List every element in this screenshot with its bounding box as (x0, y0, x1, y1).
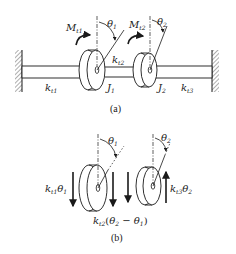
caption-a: (a) (110, 103, 121, 115)
label-mt1: Mt1 (65, 22, 82, 34)
torsional-system-figure: Mt1 Mt2 θ1 θ2 kt1 kt2 kt3 J1 J2 (a) (0, 0, 236, 254)
label-j1: J1 (105, 82, 115, 94)
right-wall (212, 50, 219, 92)
moment-mt2-arrow (128, 36, 143, 44)
label-kt3-theta2: kt3θ2 (170, 183, 192, 195)
label-mt2: Mt2 (128, 19, 146, 31)
label-kt1: kt1 (45, 82, 57, 94)
moment-mt1-arrow (76, 35, 90, 45)
left-wall (15, 50, 22, 92)
disk-j1 (79, 50, 105, 90)
subfigure-b: θ1 θ2 kt1θ1 kt3θ2 kt2(θ2 − θ1) (b) (45, 132, 192, 244)
free-body-disk-2 (136, 167, 161, 205)
label-j2: J2 (156, 82, 166, 94)
fb-rotated-line-1-dashed (108, 146, 124, 170)
shaft-kt3 (151, 66, 212, 78)
free-body-disk-1 (79, 165, 107, 211)
subfigure-a: Mt1 Mt2 θ1 θ2 kt1 kt2 kt3 J1 J2 (a) (15, 16, 219, 115)
fb-label-theta1: θ1 (108, 135, 118, 147)
label-theta1: θ1 (107, 18, 117, 30)
label-kt2: kt2 (112, 54, 124, 66)
rotated-line-2 (150, 26, 167, 70)
shaft-kt1 (22, 66, 80, 78)
fb-label-theta2: θ2 (161, 132, 171, 144)
label-kt2-theta-diff: kt2(θ2 − θ1) (93, 215, 148, 227)
caption-b: (b) (111, 232, 123, 244)
label-kt1-theta1: kt1θ1 (45, 183, 67, 195)
disk-j2 (133, 53, 157, 87)
label-theta2: θ2 (157, 16, 167, 28)
label-kt3: kt3 (181, 82, 193, 94)
